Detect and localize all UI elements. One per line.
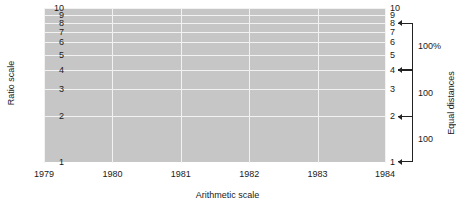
y-axis-tick-right-4: 4	[390, 66, 395, 75]
y-axis-tick-right-2: 2	[390, 112, 395, 121]
x-axis-tick-1984: 1984	[375, 170, 395, 179]
y-axis-tick-left-3: 3	[59, 85, 64, 94]
chart-plot-area	[44, 8, 386, 163]
bracket-label-100-percent: 100%	[418, 42, 441, 51]
bracket-line-100-upper	[412, 70, 413, 116]
gridline-x-1980	[112, 8, 113, 163]
arrowhead-1-icon	[398, 159, 402, 165]
y-axis-tick-right-7: 7	[390, 28, 395, 37]
gridline-y-4	[44, 70, 386, 71]
x-axis-tick-1981: 1981	[171, 170, 191, 179]
gridline-y-5	[44, 55, 386, 56]
gridline-y-6	[44, 42, 386, 43]
y-axis-tick-left-7: 7	[59, 28, 64, 37]
x-axis-tick-1983: 1983	[308, 170, 328, 179]
y-axis-tick-left-4: 4	[59, 66, 64, 75]
gridline-y-7	[44, 32, 386, 33]
gridline-x-1981	[181, 8, 182, 163]
gridline-x-1979	[44, 8, 45, 163]
x-axis-title: Arithmetic scale	[0, 190, 455, 200]
equal-distance-brackets: 100% 100 100	[398, 0, 438, 214]
gridline-y-2	[44, 116, 386, 117]
bracket-line-100-lower	[412, 116, 413, 162]
gridline-x-1984	[385, 8, 386, 163]
gridline-x-1983	[318, 8, 319, 163]
y-axis-tick-right-3: 3	[390, 85, 395, 94]
y-axis-tick-right-1: 1	[390, 158, 395, 167]
arrowhead-4-icon	[398, 67, 402, 73]
gridline-y-9	[44, 15, 386, 16]
arrowhead-2-icon	[398, 114, 402, 120]
bracket-label-100-upper: 100	[418, 89, 433, 98]
y-axis-tick-left-2: 2	[59, 112, 64, 121]
y-axis-tick-left-6: 6	[59, 38, 64, 47]
y-axis-tick-right-5: 5	[390, 51, 395, 60]
gridline-y-3	[44, 89, 386, 90]
gridline-y-8	[44, 23, 386, 24]
x-axis-tick-1982: 1982	[239, 170, 259, 179]
gridline-x-1982	[249, 8, 250, 163]
y-axis-tick-left-1: 1	[59, 158, 64, 167]
y-axis-tick-left-5: 5	[59, 51, 64, 60]
gridline-y-1	[44, 162, 386, 163]
x-axis-tick-1979: 1979	[34, 170, 54, 179]
y-axis-title: Ratio scale	[6, 45, 16, 121]
arrowhead-8-icon	[398, 20, 402, 26]
right-axis-title: Equal distances	[446, 56, 456, 150]
x-axis-tick-1980: 1980	[102, 170, 122, 179]
y-axis-tick-right-6: 6	[390, 38, 395, 47]
gridline-y-10	[44, 8, 386, 9]
bracket-label-100-lower: 100	[418, 135, 433, 144]
bracket-line-100-percent	[412, 23, 413, 70]
